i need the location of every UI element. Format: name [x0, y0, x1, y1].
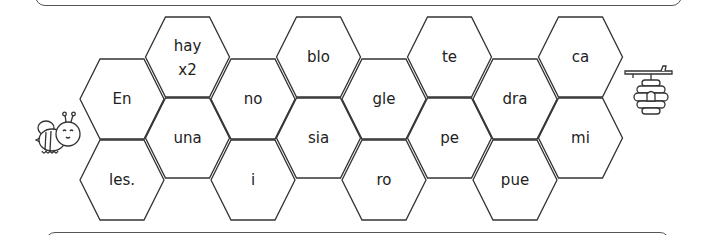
hex-label: pue	[501, 171, 529, 189]
hex-cell-ro[interactable]: ro	[342, 140, 426, 220]
hex-cell-les[interactable]: les.	[80, 140, 164, 220]
hex-label: x2	[178, 61, 196, 79]
hex-cell-i[interactable]: i	[211, 140, 295, 220]
beehive-icon	[625, 66, 672, 114]
hex-label: i	[251, 171, 255, 189]
hex-label: pe	[440, 129, 459, 147]
hex-cell-te[interactable]: te	[408, 17, 492, 97]
hex-label: gle	[373, 90, 396, 108]
hex-label: una	[173, 129, 201, 147]
hexagon-shape	[146, 17, 230, 97]
hex-label: En	[113, 90, 132, 108]
hex-label: no	[244, 90, 263, 108]
bee-icon	[36, 112, 80, 153]
hex-label: les.	[109, 171, 135, 189]
hex-cell-pue[interactable]: pue	[473, 140, 557, 220]
hex-label: ca	[572, 48, 589, 66]
hex-label: ro	[376, 171, 391, 189]
hex-label: te	[442, 48, 457, 66]
hex-label: blo	[307, 48, 330, 66]
hex-label: dra	[503, 90, 528, 108]
hex-cell-hay[interactable]: hayx2	[146, 17, 230, 97]
hex-cell-blo[interactable]: blo	[277, 17, 361, 97]
hex-label: sia	[308, 129, 329, 147]
hex-label: hay	[174, 37, 202, 55]
hex-cell-ca[interactable]: ca	[539, 17, 623, 97]
hex-label: mi	[571, 129, 590, 147]
honeycomb-board: Enles.hayx2unanoiblosiaglerotepedrapueca…	[0, 0, 715, 235]
